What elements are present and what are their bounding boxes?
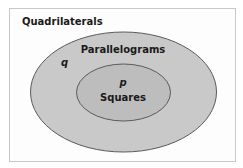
universe-label: Quadrilaterals [22,16,103,27]
outer-set-label: Parallelograms [81,44,166,55]
venn-diagram: Quadrilaterals Parallelograms q p Square… [0,0,243,168]
inner-set-variable: p [118,77,126,88]
outer-set-variable: q [61,57,68,68]
inner-set-label: Squares [100,92,146,103]
